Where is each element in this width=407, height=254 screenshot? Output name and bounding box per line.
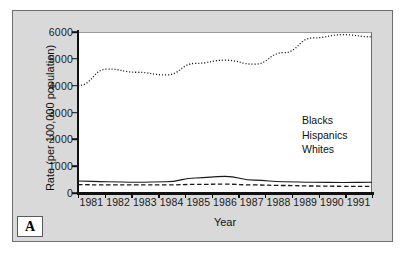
series-line-whites (78, 184, 372, 186)
legend-item-hispanics: Hispanics (250, 129, 360, 144)
series-line-hispanics (78, 176, 372, 182)
legend-label: Hispanics (302, 129, 348, 141)
series-line-blacks (78, 35, 372, 86)
chart-legend: BlacksHispanicsWhites (250, 114, 360, 158)
legend-item-whites: Whites (250, 143, 360, 158)
figure-panel-a: 0100020003000400050006000 Rate (per 100,… (0, 0, 407, 254)
legend-item-blacks: Blacks (250, 114, 360, 129)
panel-label-a: A (17, 216, 43, 237)
legend-label: Blacks (302, 114, 333, 126)
legend-label: Whites (302, 143, 334, 155)
